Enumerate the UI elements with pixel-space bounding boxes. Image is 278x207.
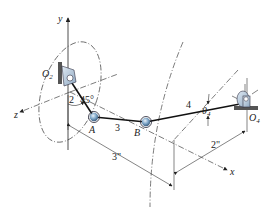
joint-b — [141, 117, 152, 128]
x-axis-label: x — [229, 166, 235, 177]
link-4-label: 4 — [186, 99, 191, 110]
z-axis — [20, 92, 70, 112]
coupler-arc — [150, 42, 183, 207]
y-axis-label: y — [57, 13, 63, 24]
joint-a-label: A — [88, 124, 96, 135]
theta4-label: θ4 — [202, 105, 211, 118]
joint-a — [89, 112, 100, 123]
o2-bearing — [58, 62, 76, 86]
spatial-linkage-diagram: y z x 3" 2" 2 3 4 45° θ4 O2 A — [0, 0, 278, 207]
o2-label: O2 — [42, 68, 53, 81]
link-2-label: 2 — [69, 94, 74, 105]
dimension-2in-label: 2" — [211, 139, 220, 150]
link-3-label: 3 — [115, 122, 120, 133]
crank-angle-label: 45° — [80, 94, 94, 105]
o4-bearing — [232, 84, 258, 110]
dimension-2in-line — [177, 131, 245, 172]
o2-centerline — [70, 74, 118, 92]
joint-b-label: B — [134, 127, 140, 138]
dimension-3in-label: 3" — [112, 151, 121, 162]
o4-label: O4 — [249, 112, 260, 125]
theta4-arrow-top — [208, 94, 209, 104]
link-3 — [94, 117, 146, 122]
z-axis-label: z — [13, 109, 18, 120]
